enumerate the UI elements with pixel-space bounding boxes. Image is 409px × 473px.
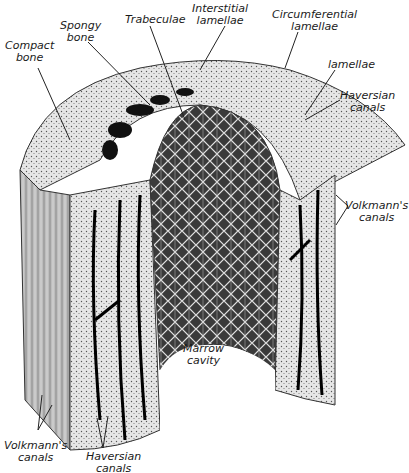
label-trabeculae: Trabeculae	[125, 14, 185, 26]
label-volkmanns-canals-bottom: Volkmann's canals	[4, 440, 67, 464]
label-volkmanns-canals-right: Volkmann's canals	[345, 200, 408, 224]
label-circumferential-lamellae: Circumferential lamellae	[272, 9, 357, 33]
label-haversian-canals-top: Haversian canals	[340, 90, 395, 114]
label-haversian-canals-bottom: Haversian canals	[86, 451, 141, 473]
label-compact-bone: Compact bone	[5, 40, 54, 64]
compact-bone-right-face	[275, 175, 335, 405]
trabeculae-region	[150, 105, 280, 370]
outer-surface	[20, 170, 70, 450]
label-lamellae: lamellae	[328, 59, 375, 71]
compact-bone-left-face	[70, 180, 160, 450]
label-spongy-bone: Spongy bone	[60, 20, 101, 44]
label-interstitial-lamellae: Interstitial lamellae	[192, 3, 248, 27]
label-marrow-cavity: Marrow cavity	[183, 343, 224, 367]
